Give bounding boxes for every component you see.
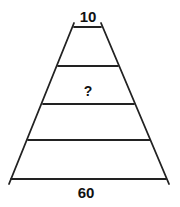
bottom-width-label: 60 (68, 184, 104, 201)
unknown-width-label: ? (78, 83, 98, 99)
trapezoid-diagram (0, 0, 180, 207)
top-width-label: 10 (70, 8, 106, 25)
